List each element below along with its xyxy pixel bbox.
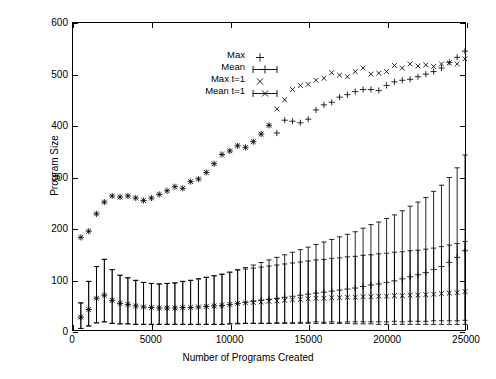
x-axis-tick-label: 5000 — [140, 334, 162, 345]
y-axis-tick — [460, 178, 465, 179]
x-axis-tick-label: 20000 — [373, 334, 401, 345]
x-axis-title: Number of Programs Created — [0, 352, 496, 363]
error-bars — [78, 155, 467, 328]
legend-label-mean-t1: Mean t=1 — [155, 85, 251, 96]
legend: Max Mean — [155, 49, 285, 97]
y-axis-tick — [73, 75, 78, 76]
figure-scatter-program-size: 0100200300400500600 Program Size Max Mea… — [0, 0, 496, 379]
legend-symbol-max — [251, 49, 285, 60]
x-axis-tick-label: 0 — [69, 334, 75, 345]
x-axis-tick — [231, 23, 232, 28]
x-axis-tick — [231, 325, 232, 330]
x-axis-tick — [467, 23, 468, 28]
y-axis-tick — [73, 229, 78, 230]
y-axis-tick-labels: 0100200300400500600 — [26, 22, 68, 331]
y-axis-tick — [73, 281, 78, 282]
x-axis-tick — [467, 325, 468, 330]
x-axis-tick-labels: 0500010000150002000025000 — [72, 334, 466, 350]
x-axis-tick — [388, 325, 389, 330]
legend-label-max-t1: Max t=1 — [155, 73, 251, 84]
y-axis-tick — [460, 23, 465, 24]
y-axis-tick — [460, 332, 465, 333]
y-axis-tick — [460, 281, 465, 282]
legend-label-mean: Mean — [155, 61, 251, 72]
legend-item-mean-t1: Mean t=1 — [155, 85, 285, 96]
y-axis-tick-label: 0 — [62, 326, 68, 337]
y-axis-tick — [460, 229, 465, 230]
x-axis-tick-label: 10000 — [216, 334, 244, 345]
x-axis-tick — [152, 23, 153, 28]
x-axis-tick-label: 25000 — [452, 334, 480, 345]
y-axis-tick — [73, 126, 78, 127]
legend-label-max: Max — [155, 49, 251, 60]
x-axis-tick — [73, 325, 74, 330]
x-axis-tick — [388, 23, 389, 28]
legend-item-max-t1: Max t=1 — [155, 73, 285, 84]
y-axis-tick-label: 500 — [51, 68, 68, 79]
y-axis-title: Program Size — [49, 106, 60, 226]
y-axis-tick — [460, 126, 465, 127]
error-bars — [78, 241, 467, 328]
series-mean-t1 — [78, 289, 467, 319]
legend-item-mean: Mean — [155, 61, 285, 72]
x-axis-tick — [73, 23, 74, 28]
series-mean — [78, 248, 468, 321]
x-axis-tick — [309, 23, 310, 28]
legend-symbol-mean-t1 — [251, 85, 285, 96]
legend-symbol-mean — [251, 61, 285, 72]
legend-symbol-max-t1 — [251, 73, 285, 84]
y-axis-tick — [460, 75, 465, 76]
x-axis-tick — [309, 325, 310, 330]
x-axis-tick-label: 15000 — [294, 334, 322, 345]
x-axis-tick — [152, 325, 153, 330]
y-axis-tick-label: 600 — [51, 17, 68, 28]
plot-area: Max Mean — [72, 22, 466, 331]
legend-item-max: Max — [155, 49, 285, 60]
y-axis-tick — [73, 332, 78, 333]
y-axis-tick — [73, 178, 78, 179]
y-axis-tick-label: 100 — [51, 274, 68, 285]
